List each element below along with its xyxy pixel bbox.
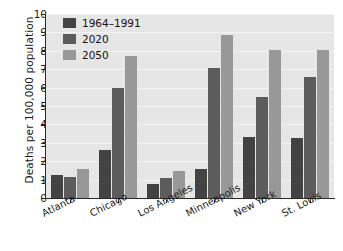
bar <box>125 56 137 198</box>
bar <box>317 50 329 198</box>
bar-group <box>147 14 185 198</box>
legend-swatch-icon <box>63 50 76 60</box>
bar <box>256 97 268 198</box>
legend-label: 2020 <box>82 33 109 45</box>
chart-legend: 1964–199120202050 <box>63 16 141 64</box>
legend-item: 1964–1991 <box>63 16 141 30</box>
legend-item: 2050 <box>63 48 141 62</box>
bar <box>269 50 281 198</box>
bar <box>195 169 207 198</box>
x-axis-line <box>45 198 335 199</box>
legend-label: 1964–1991 <box>82 17 141 29</box>
bar <box>51 175 63 198</box>
bar <box>243 137 255 198</box>
bar-group <box>195 14 233 198</box>
bar <box>147 184 159 198</box>
bar-chart: Deaths per 100,000 population 0123456789… <box>0 0 343 251</box>
bar <box>112 88 124 198</box>
bar <box>291 138 303 198</box>
legend-label: 2050 <box>82 49 109 61</box>
bar-group <box>291 14 329 198</box>
bar <box>221 35 233 198</box>
bar <box>208 68 220 198</box>
legend-swatch-icon <box>63 34 76 44</box>
bar-group <box>243 14 281 198</box>
bar <box>304 77 316 198</box>
legend-swatch-icon <box>63 18 76 28</box>
legend-item: 2020 <box>63 32 141 46</box>
bar <box>99 150 111 198</box>
bar <box>77 169 89 198</box>
